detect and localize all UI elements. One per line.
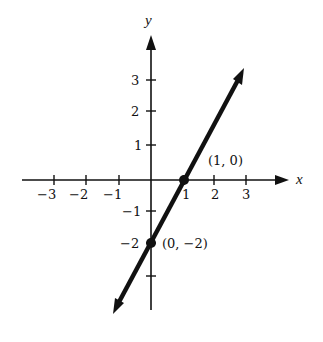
y-tick-label: 3 <box>131 73 139 88</box>
point-label-y-intercept: (0, −2) <box>162 236 208 251</box>
graph-figure: −3 −2 −1 1 2 3 3 2 1 −1 −2 y x (1, 0) (0… <box>0 0 323 342</box>
x-tick-label: −1 <box>103 187 122 202</box>
x-axis-arrow-icon <box>275 175 289 185</box>
x-tick-label: 3 <box>242 187 250 202</box>
x-tick-label: −3 <box>37 187 56 202</box>
x-tick-label: −2 <box>69 187 88 202</box>
y-tick-label: −2 <box>120 236 139 251</box>
y-tick-label: −1 <box>122 204 141 219</box>
y-axis-label: y <box>143 12 152 28</box>
coordinate-plane: −3 −2 −1 1 2 3 3 2 1 −1 −2 y x (1, 0) (0… <box>0 0 323 342</box>
x-tick-label: 2 <box>211 187 219 202</box>
x-axis-label: x <box>295 171 303 187</box>
y-tick-label: 1 <box>134 138 142 153</box>
y-tick-label: 2 <box>131 104 139 119</box>
y-axis-arrow-icon <box>146 35 156 50</box>
point-label-x-intercept: (1, 0) <box>208 153 243 168</box>
x-tick-label: 1 <box>182 187 190 202</box>
point-x-intercept <box>179 175 189 185</box>
point-y-intercept <box>146 238 156 248</box>
